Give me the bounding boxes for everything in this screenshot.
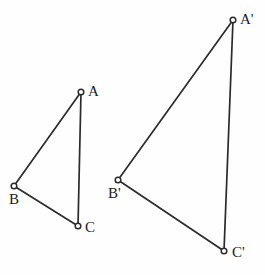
- vertex-label-a-prime: A': [240, 12, 254, 27]
- vertex-label-c: C: [85, 220, 95, 235]
- similar-triangles-svg: [0, 0, 265, 275]
- geometry-diagram: A B C A' B' C': [0, 0, 265, 275]
- vertex-label-b-prime: B': [108, 186, 121, 201]
- vertex-label-c-prime: C': [232, 245, 245, 260]
- vertex-a-prime-marker: [230, 17, 236, 23]
- vertex-label-b: B: [9, 192, 19, 207]
- triangle-a-prime-b-prime-c-prime: [115, 17, 236, 254]
- edge-c-a: [78, 92, 81, 226]
- edge-c-prime-a-prime: [224, 20, 233, 251]
- vertex-b-marker: [11, 183, 17, 189]
- vertex-c-marker: [75, 223, 81, 229]
- triangle-abc: [11, 89, 84, 229]
- vertex-c-prime-marker: [221, 248, 227, 254]
- edge-a-prime-b-prime: [118, 20, 233, 180]
- vertex-a-marker: [78, 89, 84, 95]
- edge-a-b: [14, 92, 81, 186]
- edge-b-prime-c-prime: [118, 180, 224, 251]
- edge-b-c: [14, 186, 78, 226]
- vertex-b-prime-marker: [115, 177, 121, 183]
- vertex-label-a: A: [88, 84, 99, 99]
